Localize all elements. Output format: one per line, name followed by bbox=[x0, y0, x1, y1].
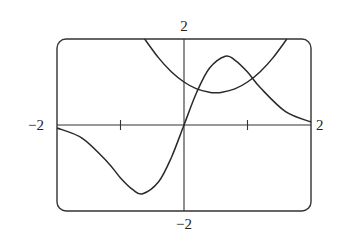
x-max-label: 2 bbox=[316, 117, 324, 133]
y-min-label: −2 bbox=[176, 216, 192, 232]
curve-parabola bbox=[145, 39, 287, 93]
chart: −2 2 2 −2 bbox=[0, 0, 339, 236]
y-max-label: 2 bbox=[180, 18, 188, 34]
x-min-label: −2 bbox=[28, 117, 44, 133]
